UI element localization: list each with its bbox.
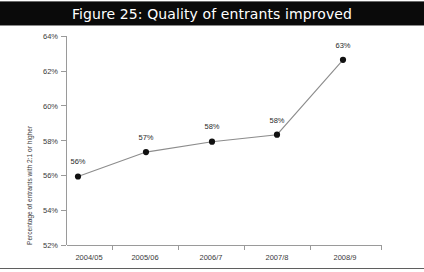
page-title: Figure 25: Quality of entrants improved xyxy=(72,6,352,22)
y-tick-label-56: 56% xyxy=(43,171,58,180)
data-label-2005-06: 57% xyxy=(138,133,153,142)
x-tick-label-2004-05: 2004/05 xyxy=(75,253,102,262)
data-point-marker[interactable] xyxy=(209,139,215,145)
x-tick-label-2007-8: 2007/8 xyxy=(266,253,289,262)
data-label-2008-9: 63% xyxy=(335,41,350,50)
figure-bottom-rule xyxy=(0,268,424,269)
data-label-2006-7: 58% xyxy=(204,122,219,131)
y-tick-label-64: 64% xyxy=(43,32,58,41)
y-tick-label-58: 58% xyxy=(43,137,58,146)
data-label-2007-8: 58% xyxy=(269,116,284,125)
data-point-marker[interactable] xyxy=(143,149,149,155)
y-tick-label-60: 60% xyxy=(43,102,58,111)
chart-plot-area: Percentage of entrants with 2:1 or highe… xyxy=(0,27,424,267)
y-axis-title: Percentage of entrants with 2:1 or highe… xyxy=(26,125,34,245)
data-point-marker[interactable] xyxy=(274,132,280,138)
figure-container: Figure 25: Quality of entrants improved … xyxy=(0,0,424,272)
data-label-2004-05: 56% xyxy=(70,157,85,166)
line-chart-svg: Percentage of entrants with 2:1 or highe… xyxy=(0,27,424,267)
x-tick-label-2006-7: 2006/7 xyxy=(200,253,223,262)
data-point-marker[interactable] xyxy=(340,57,346,63)
x-tick-label-2008-9: 2008/9 xyxy=(334,253,357,262)
series-line-entrants xyxy=(78,60,343,177)
figure-title-banner: Figure 25: Quality of entrants improved xyxy=(0,1,424,26)
data-point-marker[interactable] xyxy=(75,173,81,179)
y-tick-label-62: 62% xyxy=(43,67,58,76)
y-tick-label-52: 52% xyxy=(43,241,58,250)
x-tick-label-2005-06: 2005/06 xyxy=(131,253,158,262)
y-tick-label-54: 54% xyxy=(43,206,58,215)
